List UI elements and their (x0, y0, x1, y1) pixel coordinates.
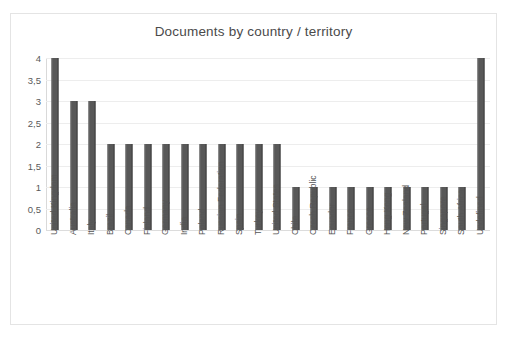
x-axis-tick-label: United States (272, 184, 281, 235)
plot-area: 00,511,522,533,54 United KingdomAustrali… (46, 58, 490, 230)
bar-slot (194, 58, 213, 230)
x-axis-tick-label: Australia (68, 202, 77, 235)
bar-slot (361, 58, 380, 230)
bar-slot (231, 58, 250, 230)
x-axis-tick-label: Brazil (105, 214, 114, 235)
x-axis-tick-label: Ecuador (327, 203, 336, 235)
x-axis-tick-label: Hong Kong (383, 192, 392, 235)
x-axis-tick-label: United Kingdom (50, 175, 59, 235)
x-axis-tick-label: Italy (87, 219, 96, 235)
x-axis-tick-label: South Africa (457, 189, 466, 235)
y-axis-tick-label: 3 (36, 96, 41, 107)
x-axis-tick-label: Singapore (438, 196, 447, 235)
x-axis-tick-label: France (346, 209, 355, 235)
x-axis-tick-label: Spain (235, 213, 244, 235)
x-axis-tick-label: Undefined (475, 196, 484, 235)
y-axis-tick-label: 1 (36, 182, 41, 193)
bar-slot (342, 58, 361, 230)
x-axis-tick-label: Finland (142, 207, 151, 235)
y-axis-tick-label: 0 (36, 225, 41, 236)
x-axis-tick-label: Germany (161, 200, 170, 235)
x-axis-tick-label: Canada (124, 205, 133, 235)
x-axis-tick-label: Greece (364, 207, 373, 235)
bar-slot (287, 58, 306, 230)
bar-slot (176, 58, 195, 230)
x-axis-tick-label: Poland (198, 209, 207, 235)
chart-title: Documents by country / territory (11, 24, 496, 39)
y-axis-tick-label: 0,5 (28, 203, 41, 214)
x-axis-tick-label: New Zealand (401, 185, 410, 235)
chart-frame: Documents by country / territory 00,511,… (10, 13, 497, 325)
y-axis-tick-label: 1,5 (28, 160, 41, 171)
x-axis-tick-label: Russian Federation (216, 161, 225, 235)
y-axis-tick-label: 3,5 (28, 74, 41, 85)
x-axis-tick-label: Czech Republic (309, 175, 318, 235)
bar-slot (102, 58, 121, 230)
bar-slot (250, 58, 269, 230)
y-axis-tick-label: 4 (36, 53, 41, 64)
bar[interactable] (89, 101, 96, 230)
y-axis-tick-label: 2,5 (28, 117, 41, 128)
y-axis-tick-label: 2 (36, 139, 41, 150)
bar-slot (83, 58, 102, 230)
x-axis-tick-label: Portugal (420, 203, 429, 235)
x-axis-tick-label: India (179, 217, 188, 235)
bar-slot (139, 58, 158, 230)
x-axis-tick-label: Turkey (253, 209, 262, 235)
x-axis-tick-label: Chile (290, 216, 299, 235)
